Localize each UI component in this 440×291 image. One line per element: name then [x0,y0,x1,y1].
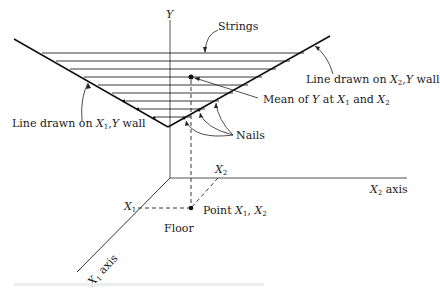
faded-caption [14,283,264,286]
strings-label: Strings [218,21,259,32]
floor-label: Floor [164,223,194,234]
label-var: X [124,200,132,213]
strings-leader [205,30,218,52]
label-sub: 2 [262,210,266,218]
x1-tick-label: X1 [124,201,136,214]
label-text: Line drawn on [12,117,96,130]
x2-axis-label: X2 axis [370,184,408,197]
label-var: ,Y [108,117,119,130]
label-sub: 1 [132,206,136,214]
line-x1y-wall-label: Line drawn on X1,Y wall [12,118,146,131]
line-on-x1-y-wall [14,39,168,127]
mean-point [189,75,194,80]
nail-leader-1 [186,121,233,136]
label-var: ,Y [402,73,413,86]
strings [42,53,304,117]
label-text: axis [382,183,407,196]
label-text: wall [413,73,440,86]
label-sub: 2 [385,99,389,107]
label-var: X [96,117,104,130]
label-var: X [390,73,398,86]
mean-label: Mean of Y at X1 and X2 [263,94,390,107]
label-text: Point [203,204,235,217]
label-text: Mean of [263,93,312,106]
label-text: Line drawn on [306,73,390,86]
label-var: X [370,183,378,196]
nails-label: Nails [236,130,265,141]
y-axis-label: Y [166,9,173,20]
label-text: at [319,93,337,106]
line-x2y-wall-label: Line drawn on X2,Y wall [306,74,440,87]
label-var: X [235,204,243,217]
label-text: wall [119,117,146,130]
arrowheads [86,46,320,126]
label-text: and [350,93,378,106]
label-var: X [215,163,223,176]
x2-tick-label: X2 [215,164,227,177]
point-label: Point X1, X2 [203,205,267,218]
nail-leader-2 [200,113,233,135]
label-sub: 2 [223,169,227,177]
floor-point [189,206,194,211]
x1-axis [77,178,170,272]
